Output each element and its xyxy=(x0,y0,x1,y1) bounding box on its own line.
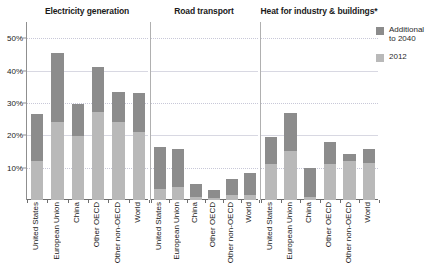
x-axis-labels: United StatesEuropean UnionChinaOther OE… xyxy=(26,202,148,280)
bar-segment-additional-to-2040 xyxy=(304,168,316,197)
gridline xyxy=(151,71,258,72)
gridline xyxy=(27,135,148,136)
gridline xyxy=(151,38,258,39)
x-axis-labels: United StatesEuropean UnionChinaOther OE… xyxy=(260,202,378,280)
x-tick-label: United States xyxy=(266,202,274,250)
x-axis-labels: United StatesEuropean UnionChinaOther OE… xyxy=(150,202,258,280)
x-tick-label: Other non-OECD xyxy=(114,202,122,263)
x-tick-label: China xyxy=(305,202,313,223)
panel-heat-industry-buildings: Heat for industry & buildings* United St… xyxy=(260,0,378,280)
bar-stack xyxy=(112,92,125,200)
gridline xyxy=(27,38,148,39)
gridline xyxy=(261,38,378,39)
x-tick-label: Other non-OECD xyxy=(345,202,353,263)
legend-swatch xyxy=(376,54,384,62)
legend-swatch xyxy=(376,27,384,35)
bar-stack xyxy=(244,173,255,201)
bar-segment-2012 xyxy=(31,161,44,200)
bar-stack xyxy=(172,149,183,200)
bar-segment-2012 xyxy=(154,189,165,200)
panel-title: Road transport xyxy=(150,6,258,16)
bar-stack xyxy=(51,53,64,200)
bar-stack xyxy=(265,137,277,200)
bar-segment-2012 xyxy=(363,163,375,200)
x-tick-label: European Union xyxy=(173,202,181,260)
bar-segment-additional-to-2040 xyxy=(190,184,201,198)
bar-segment-additional-to-2040 xyxy=(172,149,183,187)
legend-item: Additional to 2040 xyxy=(376,26,444,44)
bar-segment-additional-to-2040 xyxy=(226,179,237,195)
bar-segment-additional-to-2040 xyxy=(284,113,296,151)
gridline xyxy=(27,168,148,169)
x-tick-label: World xyxy=(245,202,253,223)
bar-stack xyxy=(92,67,105,200)
x-tick-label: China xyxy=(191,202,199,223)
bar-segment-2012 xyxy=(244,195,255,200)
bar-segment-additional-to-2040 xyxy=(324,142,336,165)
bar-segment-additional-to-2040 xyxy=(112,92,125,123)
x-tick-label: United States xyxy=(32,202,40,250)
x-tick-label: China xyxy=(73,202,81,223)
gridline xyxy=(151,135,258,136)
x-tick-label: World xyxy=(134,202,142,223)
bar-segment-2012 xyxy=(72,136,85,200)
legend-item: 2012 xyxy=(376,53,444,62)
panel-title: Heat for industry & buildings* xyxy=(260,6,378,16)
gridline xyxy=(151,103,258,104)
bar-stack xyxy=(304,168,316,200)
panel-title: Electricity generation xyxy=(26,6,148,16)
bar-segment-2012 xyxy=(324,164,336,200)
bar-segment-additional-to-2040 xyxy=(92,67,105,111)
bar-segment-2012 xyxy=(92,112,105,200)
bar-segment-2012 xyxy=(226,195,237,200)
bar-segment-additional-to-2040 xyxy=(154,147,165,189)
bar-segment-2012 xyxy=(343,161,355,200)
bar-stack xyxy=(190,184,201,200)
legend-label: 2012 xyxy=(389,53,407,62)
gridline xyxy=(261,168,378,169)
bar-segment-2012 xyxy=(284,151,296,200)
bar-segment-2012 xyxy=(51,122,64,200)
bar-stack xyxy=(284,113,296,200)
gridline xyxy=(261,71,378,72)
bar-segment-additional-to-2040 xyxy=(208,190,219,198)
bar-segment-2012 xyxy=(304,197,316,200)
x-tick-label: Other non-OECD xyxy=(227,202,235,263)
bar-segment-2012 xyxy=(265,164,277,200)
bar-stack xyxy=(31,114,44,200)
panel-electricity-generation: Electricity generation United StatesEuro… xyxy=(26,0,148,280)
panel-road-transport: Road transport United StatesEuropean Uni… xyxy=(150,0,258,280)
gridline xyxy=(261,103,378,104)
x-tick-label: Other OECD xyxy=(325,202,333,247)
bar-segment-additional-to-2040 xyxy=(51,53,64,123)
bar-segment-2012 xyxy=(190,197,201,200)
plot-area xyxy=(260,22,378,200)
bar-segment-2012 xyxy=(112,122,125,200)
bar-segment-2012 xyxy=(133,132,146,200)
x-tick-label: Other OECD xyxy=(93,202,101,247)
bar-stack xyxy=(154,147,165,200)
chart-figure: 10%20%30%40%50% Electricity generation U… xyxy=(0,0,448,280)
x-tick-label: Other OECD xyxy=(209,202,217,247)
bar-stack xyxy=(208,190,219,200)
bar-segment-2012 xyxy=(208,198,219,200)
bar-segment-additional-to-2040 xyxy=(244,173,255,195)
chart-legend: Additional to 20402012 xyxy=(376,26,444,71)
bar-segment-additional-to-2040 xyxy=(363,149,375,163)
bar-stack xyxy=(72,104,85,200)
bar-stack xyxy=(363,149,375,200)
bar-segment-additional-to-2040 xyxy=(133,93,146,132)
bar-stack xyxy=(324,142,336,200)
bar-segment-additional-to-2040 xyxy=(31,114,44,161)
bar-stack xyxy=(226,179,237,200)
bar-segment-additional-to-2040 xyxy=(265,137,277,164)
bar-segment-additional-to-2040 xyxy=(72,104,85,136)
bar-stack xyxy=(133,93,146,200)
bar-stack xyxy=(343,154,355,200)
gridline xyxy=(27,71,148,72)
x-tick-label: European Union xyxy=(286,202,294,260)
gridline xyxy=(151,168,258,169)
plot-area xyxy=(26,22,148,200)
x-tick-label: European Union xyxy=(53,202,61,260)
bar-segment-additional-to-2040 xyxy=(343,154,355,161)
